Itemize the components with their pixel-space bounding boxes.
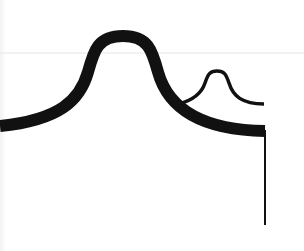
small-bell-curve [178,71,264,104]
curve-diagram [0,0,304,251]
diagram-canvas [0,0,304,251]
large-bell-curve [0,36,265,131]
